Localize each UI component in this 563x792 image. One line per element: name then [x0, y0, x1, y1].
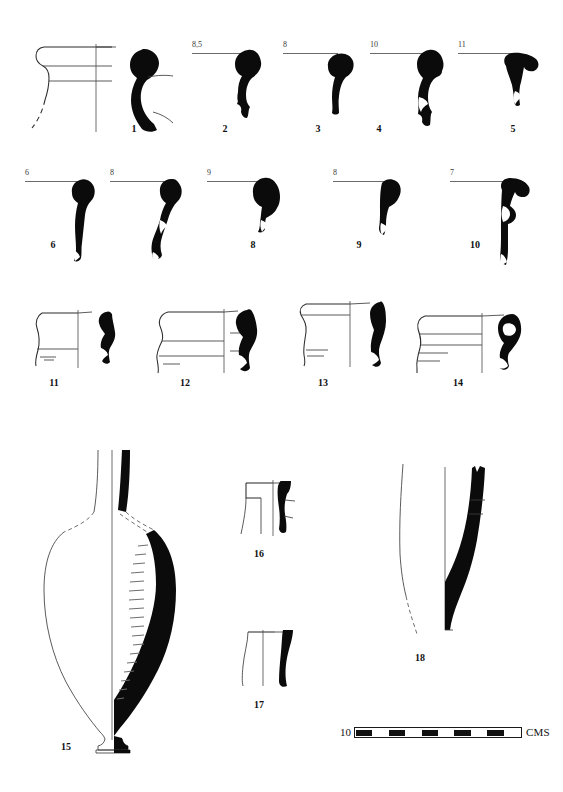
- figure-label-6: 6: [47, 240, 59, 250]
- figure-label-12: 12: [178, 378, 192, 388]
- figure-1: [30, 40, 205, 135]
- scale-bar-segment: [356, 730, 372, 736]
- figure-label-18: 18: [413, 653, 427, 663]
- pottery-plate: 1 8,5 2 8 3 10 4 11: [0, 0, 563, 792]
- figure-label-3: 3: [312, 124, 324, 134]
- diameter-value-8: 9: [207, 169, 211, 177]
- scale-bar-segment: [405, 730, 421, 736]
- scale-bar-segment: [438, 730, 454, 736]
- figure-label-14: 14: [451, 378, 465, 388]
- figure-label-15: 15: [59, 742, 73, 752]
- figure-2: [228, 48, 268, 120]
- figure-label-5: 5: [507, 124, 519, 134]
- figure-label-11: 11: [47, 378, 61, 388]
- scale-bar-segment: [471, 730, 487, 736]
- figure-label-2: 2: [219, 124, 231, 134]
- scale-bar: 10 CMS: [340, 727, 550, 738]
- figure-11: [32, 308, 132, 370]
- scale-bar-segment: [504, 730, 520, 736]
- scale-bar-segment: [422, 730, 438, 736]
- figure-label-16: 16: [252, 549, 266, 559]
- figure-3: [322, 50, 360, 118]
- figure-6: [66, 176, 100, 264]
- scale-bar-unit: CMS: [526, 727, 550, 738]
- figure-18: [387, 462, 497, 642]
- figure-4: [410, 48, 452, 128]
- scale-bar-segment: [389, 730, 405, 736]
- figure-15: [34, 450, 194, 755]
- figure-label-1: 1: [128, 124, 140, 134]
- diameter-value-7: 8: [110, 169, 114, 177]
- diameter-value-4: 10: [370, 41, 378, 49]
- figure-13: [298, 300, 398, 370]
- figure-12: [152, 307, 264, 375]
- diameter-value-2: 8,5: [192, 41, 202, 49]
- scale-bar-segment: [487, 730, 503, 736]
- figure-14: [412, 311, 528, 375]
- scale-bar-value: 10: [340, 727, 351, 738]
- figure-9: [372, 177, 406, 239]
- diameter-value-6: 6: [25, 169, 29, 177]
- scale-bar-segment: [372, 730, 388, 736]
- figure-5: [498, 50, 544, 118]
- figure-label-9: 9: [353, 240, 365, 250]
- figure-8: [248, 176, 284, 236]
- scale-bar-track: [354, 727, 522, 738]
- figure-10: [490, 176, 534, 268]
- figure-label-8: 8: [247, 240, 259, 250]
- figure-label-17: 17: [252, 700, 266, 710]
- diameter-value-3: 8: [283, 41, 287, 49]
- figure-label-10: 10: [468, 240, 482, 250]
- figure-label-4: 4: [373, 124, 385, 134]
- figure-label-7: 7: [149, 240, 161, 250]
- figure-17: [239, 628, 311, 690]
- figure-16: [239, 478, 311, 540]
- diameter-value-10: 7: [450, 169, 454, 177]
- figure-label-13: 13: [316, 378, 330, 388]
- diameter-value-5: 11: [458, 41, 466, 49]
- scale-bar-segment: [454, 730, 470, 736]
- diameter-value-9: 8: [333, 169, 337, 177]
